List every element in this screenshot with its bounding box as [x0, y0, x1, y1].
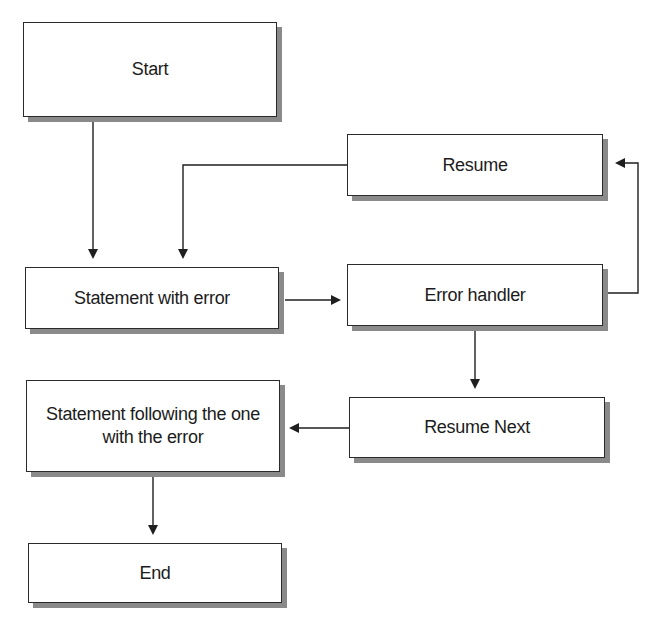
node-end-label: End: [133, 562, 176, 585]
node-end: End: [28, 543, 282, 603]
node-statement-following: Statement following the one with the err…: [26, 380, 280, 472]
edge-statement-with-error-to-error-handler: [285, 295, 341, 305]
node-error-handler: Error handler: [347, 264, 603, 326]
node-statement-with-error: Statement with error: [25, 267, 279, 329]
node-resume: Resume: [347, 134, 603, 196]
node-start: Start: [23, 22, 277, 117]
node-resume-next: Resume Next: [349, 397, 605, 458]
edge-statement-following-to-end: [148, 477, 158, 535]
node-start-label: Start: [126, 58, 175, 81]
node-resume-label: Resume: [436, 154, 513, 177]
node-statement-with-error-label: Statement with error: [68, 287, 236, 310]
edge-error-handler-to-resume-next: [470, 331, 480, 389]
edge-error-handler-to-resume: [608, 158, 638, 293]
node-statement-following-label: Statement following the one with the err…: [27, 403, 279, 449]
node-resume-next-label: Resume Next: [418, 416, 536, 439]
edge-start-to-statement-with-error: [88, 117, 98, 259]
edge-resume-next-to-statement-following: [289, 423, 349, 433]
node-error-handler-label: Error handler: [418, 284, 531, 307]
edge-resume-to-statement-with-error: [178, 165, 347, 259]
